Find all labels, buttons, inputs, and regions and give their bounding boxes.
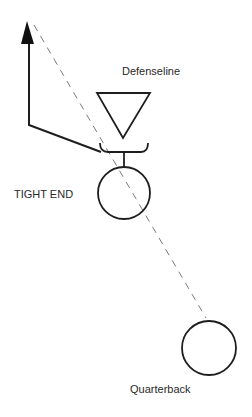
quarterback-label: Quarterback: [130, 384, 191, 395]
defenseline-label: Defenseline: [122, 66, 180, 77]
diagram-svg: [0, 0, 252, 417]
tight-end-label: TIGHT END: [14, 189, 73, 200]
pass-dashed-line: [34, 25, 206, 318]
play-diagram: Defenseline TIGHT END Quarterback: [0, 0, 252, 417]
quarterback-circle-icon: [182, 321, 236, 375]
defender-triangle-icon: [97, 93, 150, 138]
route-arrowhead-icon: [21, 21, 34, 44]
tight-end-circle-icon: [98, 167, 150, 219]
route-path: [29, 42, 101, 152]
